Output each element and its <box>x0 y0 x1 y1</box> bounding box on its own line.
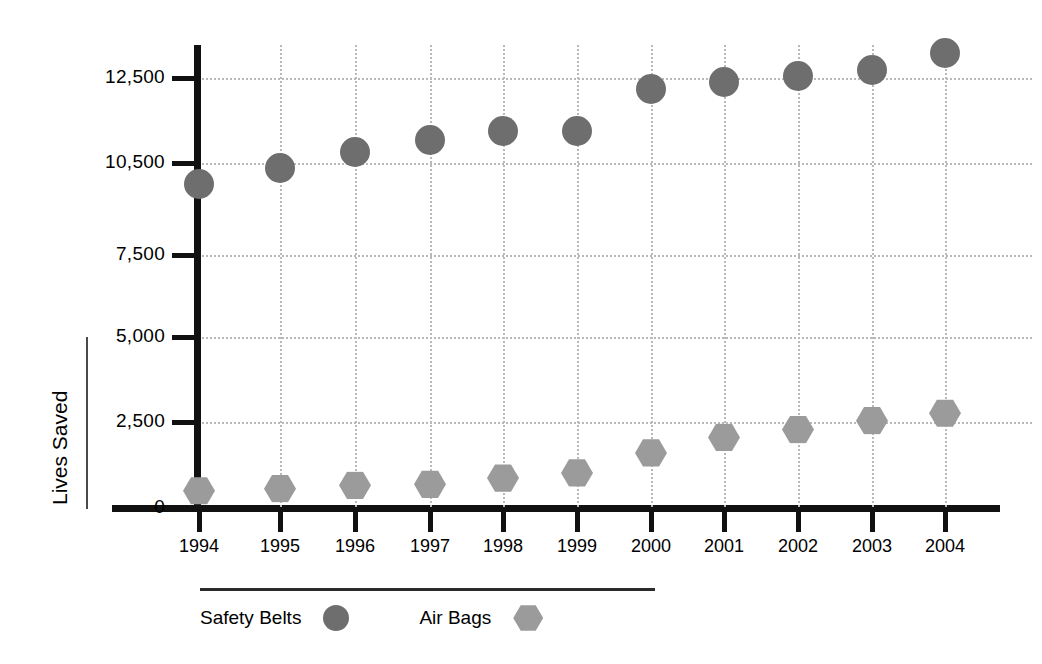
data-point-safety-belts <box>636 74 666 104</box>
x-axis-line <box>112 505 1000 512</box>
data-point-safety-belts <box>857 55 887 85</box>
legend-swatch-circle-icon <box>323 605 349 631</box>
data-point-air-bags <box>339 471 371 500</box>
x-axis-tick <box>353 512 358 532</box>
y-axis-tick <box>172 335 198 340</box>
data-point-safety-belts <box>488 116 518 146</box>
gridline-horizontal <box>202 163 1032 165</box>
y-axis-tick <box>172 76 198 81</box>
x-axis-tick <box>278 512 283 532</box>
gridline-horizontal <box>202 337 1032 339</box>
x-axis-tick <box>575 512 580 532</box>
y-axis-tick-label: 7,500 <box>60 243 165 265</box>
gridline-vertical <box>430 45 432 507</box>
data-point-air-bags <box>782 415 814 444</box>
gridline-vertical <box>945 45 947 507</box>
legend-label: Safety Belts <box>200 607 301 629</box>
x-axis-tick <box>796 512 801 532</box>
y-axis-title: Lives Saved <box>48 391 72 505</box>
x-axis-tick <box>943 512 948 532</box>
data-point-safety-belts <box>709 67 739 97</box>
data-point-air-bags <box>856 406 888 435</box>
data-point-safety-belts <box>930 38 960 68</box>
legend-item-air-bags[interactable]: Air Bags <box>419 605 543 632</box>
x-axis-tick-label: 2003 <box>852 536 892 557</box>
chart-legend: Safety BeltsAir Bags <box>200 598 655 638</box>
legend-divider <box>200 588 655 591</box>
y-axis-tick-label: 2,500 <box>60 410 165 432</box>
y-axis-line <box>194 45 201 511</box>
x-axis-tick <box>722 512 727 532</box>
y-axis-tick <box>172 420 198 425</box>
data-point-air-bags <box>487 464 519 493</box>
data-point-safety-belts <box>340 137 370 167</box>
gridline-horizontal <box>202 422 1032 424</box>
legend-label: Air Bags <box>419 607 491 629</box>
x-axis-tick-label: 1994 <box>179 536 219 557</box>
legend-swatch-hexagon-icon <box>513 605 543 632</box>
gridline-vertical <box>651 45 653 507</box>
y-axis-tick <box>172 161 198 166</box>
x-axis-tick-label: 1998 <box>483 536 523 557</box>
legend-item-safety-belts[interactable]: Safety Belts <box>200 605 349 631</box>
data-point-safety-belts <box>415 125 445 155</box>
data-point-air-bags <box>414 470 446 499</box>
data-point-safety-belts <box>184 169 214 199</box>
y-axis-tick-label: 10,500 <box>60 151 165 173</box>
x-axis-tick-label: 1999 <box>557 536 597 557</box>
data-point-air-bags <box>264 474 296 503</box>
gridline-vertical <box>872 45 874 507</box>
y-axis-tick-label: 5,000 <box>60 325 165 347</box>
gridline-horizontal <box>202 255 1032 257</box>
x-axis-tick <box>870 512 875 532</box>
x-axis-tick-label: 2004 <box>925 536 965 557</box>
x-axis-tick-label: 2000 <box>631 536 671 557</box>
data-point-safety-belts <box>562 116 592 146</box>
data-point-safety-belts <box>265 153 295 183</box>
chart-root: Lives Saved 12,50010,5007,5005,0002,5000… <box>0 0 1042 664</box>
x-axis-tick-label: 1996 <box>335 536 375 557</box>
x-axis-tick-label: 2002 <box>778 536 818 557</box>
y-axis-tick-label: 0 <box>60 496 165 518</box>
x-axis-tick-label: 1995 <box>260 536 300 557</box>
x-axis-tick <box>649 512 654 532</box>
gridline-vertical <box>503 45 505 507</box>
x-axis-tick <box>428 512 433 532</box>
data-point-air-bags <box>708 423 740 452</box>
x-axis-tick <box>501 512 506 532</box>
y-axis-tick <box>172 253 198 258</box>
gridline-vertical <box>577 45 579 507</box>
data-point-air-bags <box>183 476 215 505</box>
gridline-horizontal <box>202 78 1032 80</box>
x-axis-tick-label: 1997 <box>410 536 450 557</box>
x-axis-tick-label: 2001 <box>704 536 744 557</box>
data-point-safety-belts <box>783 61 813 91</box>
data-point-air-bags <box>635 438 667 467</box>
gridline-vertical <box>355 45 357 507</box>
y-axis-tick-label: 12,500 <box>60 66 165 88</box>
data-point-air-bags <box>561 458 593 487</box>
gridline-vertical <box>280 45 282 507</box>
x-axis-tick <box>197 512 202 532</box>
